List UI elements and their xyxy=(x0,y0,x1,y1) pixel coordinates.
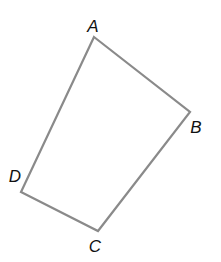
quadrilateral-diagram: A B C D xyxy=(0,0,221,262)
vertex-label-b: B xyxy=(190,118,201,137)
quadrilateral-abcd xyxy=(21,37,190,231)
vertex-label-a: A xyxy=(86,17,98,36)
vertex-label-d: D xyxy=(9,167,21,186)
vertex-label-c: C xyxy=(89,237,102,256)
